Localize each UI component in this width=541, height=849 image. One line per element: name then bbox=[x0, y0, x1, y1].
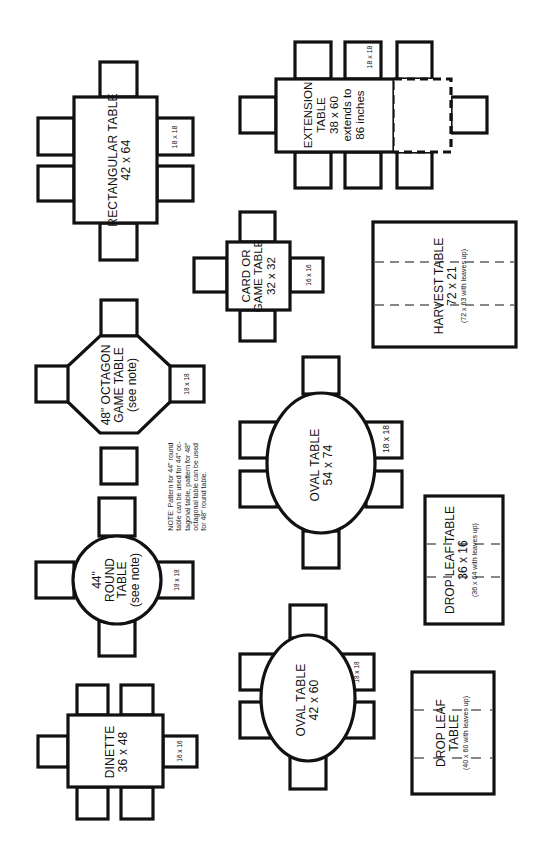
chair bbox=[157, 166, 193, 201]
extension-note: 86 inches bbox=[353, 82, 366, 148]
round-table-label: 44" ROUND TABLE (see note) bbox=[91, 553, 141, 607]
table-name: TABLE bbox=[315, 82, 328, 148]
dinette-table-label: DINETTE 36 x 48 bbox=[104, 726, 129, 779]
table-name: GAME TABLE bbox=[113, 345, 126, 426]
table-name: OVAL TABLE bbox=[295, 664, 308, 737]
chair-size-label: 18 x 18 bbox=[354, 661, 361, 682]
chair-size-label: 18 x 18 bbox=[171, 126, 178, 149]
leaves-note: (40 x 60 with leaves up) bbox=[462, 696, 470, 770]
chair bbox=[100, 223, 137, 260]
chair bbox=[99, 621, 135, 656]
table-size: 32 x 32 bbox=[265, 240, 277, 312]
table-name: 44" bbox=[91, 553, 104, 607]
extension-leaf-area bbox=[394, 79, 451, 152]
chair-size-label: 16 x 16 bbox=[177, 740, 184, 761]
table-name: TABLE bbox=[448, 696, 461, 770]
chair-size-label: 16 x 16 bbox=[306, 264, 313, 285]
chair bbox=[303, 531, 339, 568]
table-size: 42 x 64 bbox=[120, 93, 133, 226]
table-name: CARD OR bbox=[240, 240, 252, 312]
note-line: for 48" round table. bbox=[200, 441, 208, 530]
chair bbox=[101, 300, 137, 336]
chair bbox=[100, 62, 137, 97]
table-name: OVAL TABLE bbox=[309, 429, 322, 502]
chair bbox=[121, 787, 153, 819]
chair bbox=[77, 685, 108, 715]
chair-size-label: 18 x 18 bbox=[382, 425, 391, 453]
note-line: tagonal table, pattern for 48" bbox=[184, 441, 192, 530]
table-name: DROP LEAF bbox=[435, 696, 448, 770]
pattern-note: NOTE: Pattern for 44" round table can be… bbox=[167, 441, 208, 530]
chair-size-label: 18 x 18 bbox=[174, 569, 181, 590]
note-line: NOTE: Pattern for 44" round bbox=[167, 441, 175, 530]
chair bbox=[36, 562, 74, 598]
chair bbox=[77, 787, 108, 819]
chair bbox=[38, 736, 68, 767]
table-size: 42 x 60 bbox=[308, 664, 321, 737]
note-line: table can be used for 44" oc- bbox=[176, 441, 184, 530]
chair bbox=[303, 357, 339, 394]
table-name: HARVEST TABLE bbox=[433, 238, 446, 335]
table-size: 36 x 16 bbox=[457, 506, 470, 614]
chair bbox=[451, 97, 487, 133]
drop-leaf-small-label: DROP LEAF TABLE 36 x 16 (36 x 64 with le… bbox=[444, 506, 479, 614]
table-name: TABLE bbox=[116, 553, 129, 607]
chair-size-label: 18 x 18 bbox=[366, 46, 373, 69]
chair bbox=[345, 152, 381, 188]
chair bbox=[99, 498, 135, 536]
chair bbox=[397, 42, 432, 79]
card-table-label: CARD OR GAME TABLE 32 x 32 bbox=[240, 240, 277, 312]
extension-note: extends to bbox=[340, 82, 353, 148]
table-name: GAME TABLE bbox=[253, 240, 265, 312]
see-note: (see note) bbox=[125, 345, 138, 426]
leaves-note: (72 x 63 with leaves up) bbox=[460, 238, 468, 335]
table-diagram: RECTANGULAR TABLE 42 x 64 18 x 18 EXTENS… bbox=[0, 0, 541, 849]
see-note: (see note) bbox=[129, 553, 142, 607]
chair bbox=[290, 605, 326, 638]
table-size: 72 x 21 bbox=[446, 238, 459, 335]
table-size: 36 x 48 bbox=[117, 726, 130, 779]
chair bbox=[121, 685, 153, 715]
chair bbox=[101, 448, 137, 484]
oval-table-small-label: OVAL TABLE 42 x 60 bbox=[295, 664, 320, 737]
chair bbox=[295, 152, 331, 188]
chair bbox=[194, 258, 227, 292]
octagon-table-label: 48" OCTAGON GAME TABLE (see note) bbox=[100, 345, 139, 426]
table-name: RECTANGULAR TABLE bbox=[107, 93, 120, 226]
table-name: DROP LEAF TABLE bbox=[444, 506, 457, 614]
table-size: 38 x 60 bbox=[328, 82, 341, 148]
table-size: 54 x 74 bbox=[322, 429, 335, 502]
chair bbox=[295, 42, 331, 79]
chair bbox=[38, 166, 74, 201]
oval-table-large-label: OVAL TABLE 54 x 74 bbox=[309, 429, 334, 502]
harvest-table-label: HARVEST TABLE 72 x 21 (72 x 63 with leav… bbox=[433, 238, 468, 335]
note-line: octagonal table can be used bbox=[192, 441, 200, 530]
table-name: DINETTE bbox=[104, 726, 117, 779]
leaves-note: (36 x 64 with leaves up) bbox=[471, 506, 479, 614]
chair bbox=[240, 212, 275, 242]
extension-table-label: EXTENSION TABLE 38 x 60 extends to 86 in… bbox=[302, 82, 366, 148]
chair bbox=[397, 152, 432, 188]
drop-leaf-large-label: DROP LEAF TABLE (40 x 60 with leaves up) bbox=[435, 696, 470, 770]
chair bbox=[38, 118, 74, 155]
chair bbox=[345, 42, 381, 79]
table-name: EXTENSION bbox=[302, 82, 315, 148]
chair bbox=[240, 97, 276, 133]
rectangular-table-label: RECTANGULAR TABLE 42 x 64 bbox=[107, 93, 132, 226]
chair bbox=[240, 310, 275, 341]
chair-size-label: 18 x 18 bbox=[184, 373, 191, 394]
